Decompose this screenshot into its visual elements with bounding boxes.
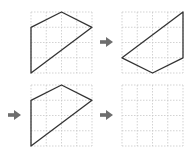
panel-1 — [31, 12, 92, 73]
arrow-right-icon — [8, 110, 21, 120]
panel-4 — [122, 85, 183, 146]
grid — [31, 12, 92, 73]
grid — [31, 85, 92, 146]
diagram-canvas — [0, 0, 192, 154]
arrow-right-icon — [100, 110, 113, 120]
grid — [122, 85, 183, 146]
arrow-right-icon — [100, 37, 113, 47]
panel-2 — [122, 12, 183, 73]
grid — [122, 12, 183, 73]
panel-3 — [31, 85, 92, 146]
